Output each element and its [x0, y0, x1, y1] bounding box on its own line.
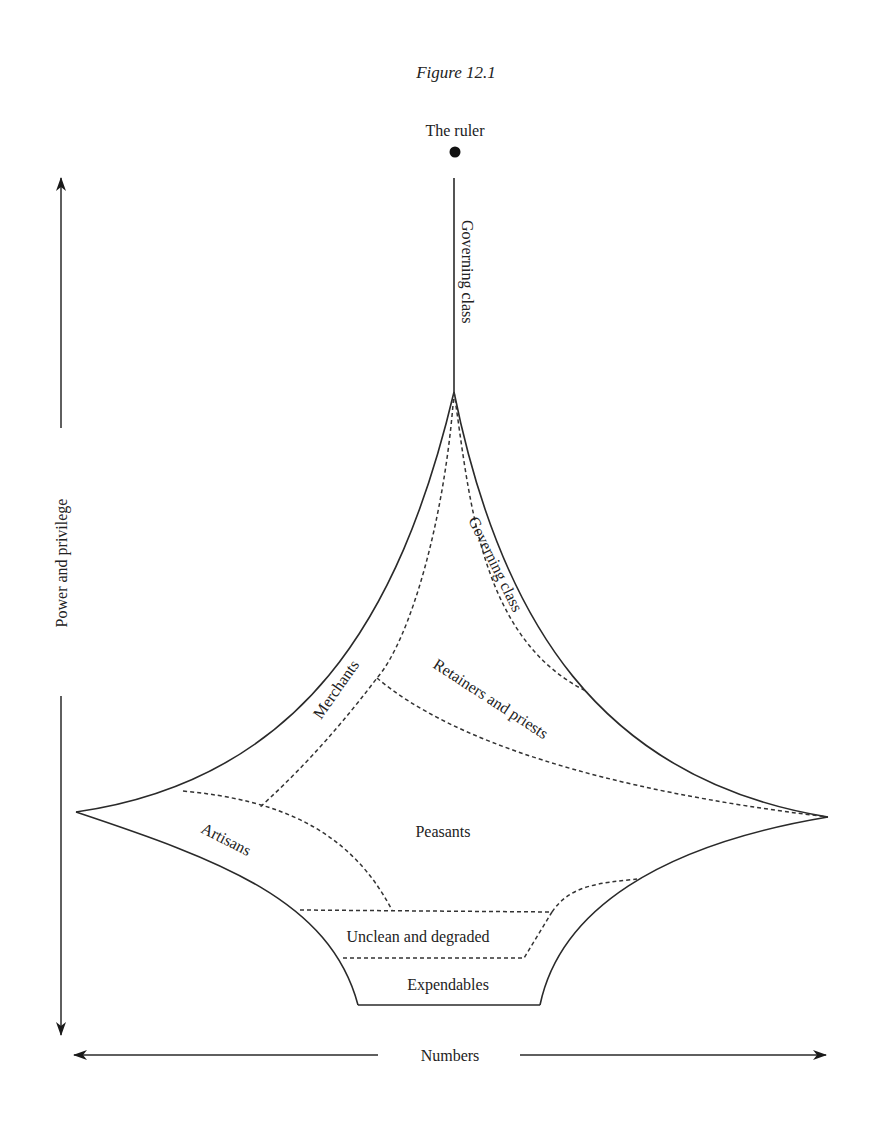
ruler-dot: [450, 147, 461, 158]
outline-lower-right: [540, 817, 828, 1005]
stem-label: Governing class: [458, 220, 476, 324]
label-peasants: Peasants: [415, 823, 470, 840]
divider-merchants: [259, 392, 454, 808]
apex-label: The ruler: [425, 122, 485, 139]
social-stratification-diagram: Figure 12.1 The ruler Governing class Po…: [0, 0, 873, 1125]
label-retainers-priests: Retainers and priests: [430, 655, 552, 743]
label-governing-class: Governing class: [464, 514, 526, 615]
label-unclean-degraded: Unclean and degraded: [346, 928, 489, 946]
divider-retainers: [377, 678, 828, 817]
divider-unclean-right: [552, 879, 637, 912]
divider-unclean-right-side: [524, 912, 552, 958]
divider-artisans: [183, 791, 392, 910]
vertical-axis-label: Power and privilege: [53, 499, 71, 628]
horizontal-axis-label: Numbers: [421, 1047, 480, 1064]
label-expendables: Expendables: [407, 976, 489, 994]
label-artisans: Artisans: [199, 820, 254, 859]
outline-upper-left: [76, 392, 454, 812]
divider-unclean-top: [300, 910, 552, 912]
figure-title: Figure 12.1: [415, 63, 496, 82]
divider-governing-class: [454, 392, 588, 692]
